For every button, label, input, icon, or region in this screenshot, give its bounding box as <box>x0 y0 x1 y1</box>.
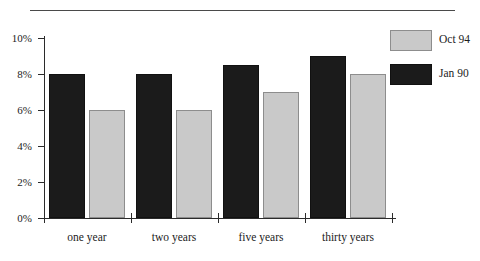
bar-jan-90 <box>136 74 172 218</box>
bar-oct-94 <box>350 74 386 218</box>
x-axis-category-label: thirty years <box>322 232 374 244</box>
x-axis-tick-mark <box>131 213 132 223</box>
legend-label: Jan 90 <box>439 68 469 80</box>
x-axis-tick-mark <box>392 213 393 223</box>
y-axis-tick-label: 6% <box>17 105 32 116</box>
legend-item: Oct 94 <box>390 30 476 56</box>
y-axis-tick-mark <box>38 182 45 183</box>
y-axis-tick-label: 0% <box>17 213 32 224</box>
y-axis-tick-mark <box>38 74 45 75</box>
x-axis-category-label: two years <box>152 232 196 244</box>
x-axis-category-label: one year <box>67 232 106 244</box>
y-axis-tick-mark <box>38 146 45 147</box>
x-axis-category-label: five years <box>238 232 283 244</box>
bar-jan-90 <box>310 56 346 218</box>
bar-oct-94 <box>263 92 299 218</box>
chart-legend: Oct 94Jan 90 <box>390 30 476 98</box>
x-axis-tick-mark <box>305 213 306 223</box>
legend-swatch <box>390 64 432 85</box>
y-axis-tick-label: 2% <box>17 177 32 188</box>
y-axis-tick-label: 8% <box>17 69 32 80</box>
y-axis-tick-mark <box>38 38 45 39</box>
bar-oct-94 <box>176 110 212 218</box>
y-axis-tick-label: 10% <box>12 33 32 44</box>
y-axis-tick-label: 4% <box>17 141 32 152</box>
bar-jan-90 <box>223 65 259 218</box>
legend-swatch <box>390 30 432 51</box>
chart-figure: 10%8%6%4%2%0% one yeartwo yearsfive year… <box>0 0 480 261</box>
x-axis-tick-mark <box>218 213 219 223</box>
bar-jan-90 <box>49 74 85 218</box>
x-axis-tick-mark <box>44 213 45 223</box>
y-axis-tick-mark <box>38 110 45 111</box>
bar-oct-94 <box>89 110 125 218</box>
legend-item: Jan 90 <box>390 64 476 90</box>
legend-label: Oct 94 <box>439 34 470 46</box>
y-axis-line <box>44 36 45 219</box>
x-axis-line <box>44 218 396 219</box>
